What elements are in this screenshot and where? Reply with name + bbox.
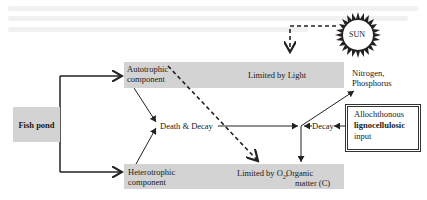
heterotrophic-label: Heterotrophic component [128,167,175,187]
allochthonous-input-box: Allochthonous lignocellulosic input [345,104,421,152]
nutrients-label: Nitrogen, Phosphorus [352,68,392,88]
sun-label: SUN [349,30,365,40]
decay-label: Decay [312,121,334,131]
autotrophic-line2: component [127,74,168,84]
autotrophic-line1: Autotrophic [127,64,168,74]
death-decay-label: Death & Decay [160,121,213,131]
nutrients-line1: Nitrogen, [352,68,392,78]
limited-by-o2-label: Limited by O2, [237,168,288,182]
allochthonous-line3: input [354,131,418,142]
organic-line1: Organic [286,168,330,178]
heterotrophic-line1: Heterotrophic [128,167,175,177]
allochthonous-line2: lignocellulosic [354,120,418,131]
limited-o2-text: Limited by O [237,168,283,178]
fish-pond-box: Fish pond [13,107,60,142]
heterotrophic-line2: component [128,177,175,187]
nutrients-line2: Phosphorus [352,78,392,88]
organic-matter-label: Organic matter (C) [286,168,330,188]
organic-line2: matter (C) [286,178,330,188]
allochthonous-line1: Allochthonous [354,109,418,120]
fish-pond-label: Fish pond [18,120,54,130]
autotrophic-label: Autotrophic component [127,64,168,84]
limited-by-light-label: Limited by Light [248,70,306,80]
